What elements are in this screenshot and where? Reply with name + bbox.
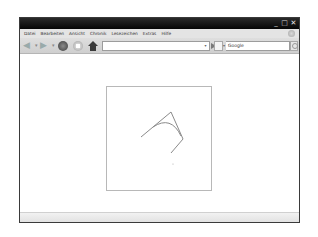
back-arrow-icon[interactable]: ◀ — [23, 41, 33, 50]
maximize-icon[interactable]: □ — [281, 19, 288, 28]
title-bar[interactable]: _ □ ✕ — [20, 18, 299, 29]
navigation-toolbar: ◀ ▾ ▶ ▾ ▾ ▾ Google — [20, 38, 299, 54]
stop-icon[interactable] — [73, 41, 83, 51]
url-dropdown-icon[interactable]: ▾ — [202, 42, 209, 50]
reload-icon[interactable] — [58, 41, 68, 51]
forward-history-dropdown-icon[interactable]: ▾ — [52, 41, 56, 50]
menu-datei[interactable]: Datei — [24, 31, 35, 36]
menu-extras[interactable]: Extras — [143, 31, 157, 36]
drawing-canvas[interactable] — [106, 86, 212, 191]
page-content — [20, 55, 299, 212]
menu-lesezeichen[interactable]: Lesezeichen — [111, 31, 137, 36]
magnifier-icon[interactable] — [290, 41, 298, 51]
control-lines — [141, 112, 183, 153]
status-bar — [20, 212, 299, 222]
home-body — [90, 46, 96, 51]
menu-hilfe[interactable]: Hilfe — [161, 31, 171, 36]
search-input[interactable]: Google — [226, 41, 290, 51]
menu-bar: Datei Bearbeiten Ansicht Chronik Lesezei… — [20, 29, 299, 38]
back-history-dropdown-icon[interactable]: ▾ — [35, 41, 39, 50]
menu-bearbeiten[interactable]: Bearbeiten — [40, 31, 64, 36]
home-icon[interactable] — [88, 41, 98, 51]
menu-ansicht[interactable]: Ansicht — [69, 31, 85, 36]
minimize-icon[interactable]: _ — [273, 19, 279, 28]
url-input[interactable] — [102, 41, 210, 51]
search-engine-icon[interactable] — [214, 41, 223, 51]
point-dot — [172, 163, 173, 164]
close-icon[interactable]: ✕ — [289, 19, 298, 28]
throbber-icon — [288, 30, 295, 37]
forward-arrow-icon[interactable]: ▶ — [40, 41, 50, 50]
canvas-drawing — [107, 87, 211, 190]
menu-chronik[interactable]: Chronik — [90, 31, 106, 36]
browser-window: _ □ ✕ Datei Bearbeiten Ansicht Chronik L… — [19, 17, 300, 223]
